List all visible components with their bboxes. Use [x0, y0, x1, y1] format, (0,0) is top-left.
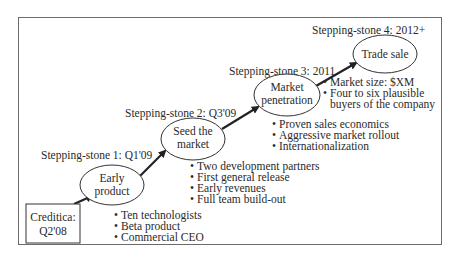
bullet-glyph: •: [272, 140, 276, 152]
stone-1-node-line-2: product: [94, 185, 130, 198]
stone-2-bullet-4: Full team build-out: [197, 193, 287, 205]
stone-2-node-line-2: market: [177, 138, 210, 150]
stone-4-bullet-2-cont: buyers of the company: [330, 98, 435, 111]
stone-4-label: Stepping-stone 4: 2012+: [312, 24, 425, 37]
start-node-creditica: Creditica: Q2'08: [26, 204, 80, 243]
start-line-2: Q2'08: [39, 225, 67, 237]
stone-2-node-line-1: Seed the: [173, 125, 212, 137]
stepping-stones-diagram: Creditica: Q2'08 Stepping-stone 1: Q1'09…: [0, 0, 461, 262]
stone-3-bullets: • Proven sales economics • Aggressive ma…: [272, 118, 400, 152]
stone-3-bullet-3: Internationalization: [279, 140, 369, 152]
bullet-glyph: •: [190, 193, 194, 205]
stone-3-node-line-1: Market: [270, 81, 304, 93]
stone-1-bullets: • Ten technologists • Beta product • Com…: [114, 209, 204, 243]
start-line-1: Creditica:: [30, 211, 75, 223]
stone-4-bullets: • Market size: $XM • Four to six plausib…: [323, 76, 435, 111]
start-box: [26, 204, 80, 243]
stone-3-node-line-2: penetration: [261, 94, 313, 107]
bullet-glyph: •: [114, 231, 118, 243]
stone-2-bullets: • Two development partners • First gener…: [190, 160, 320, 205]
stone-1-label: Stepping-stone 1: Q1'09: [41, 149, 153, 162]
stone-1-node-line-1: Early: [100, 172, 125, 185]
bullet-glyph: •: [323, 87, 327, 99]
stone-2-label: Stepping-stone 2: Q3'09: [125, 107, 237, 120]
stone-4-node-line-1: Trade sale: [361, 48, 408, 60]
stone-1-bullet-3: Commercial CEO: [121, 231, 204, 243]
